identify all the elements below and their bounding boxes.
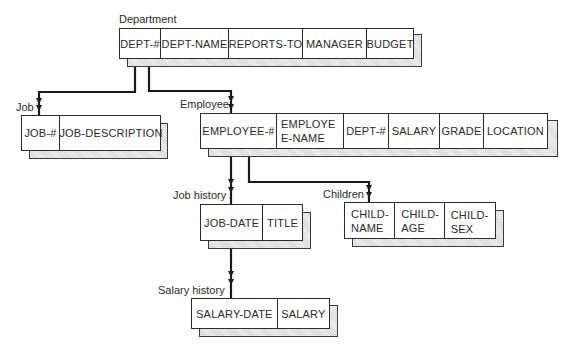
record-job: JOB-# JOB-DESCRIPTION <box>21 115 161 151</box>
field-location: LOCATION <box>484 114 547 148</box>
arrow-icon <box>36 98 42 104</box>
field-child-sex-text: CHILD-SEX <box>451 208 489 236</box>
field-manager: MANAGER <box>303 29 367 58</box>
record-employee: EMPLOYEE-# EMPLOYEE-NAME DEPT-# SALARY G… <box>200 113 548 149</box>
field-employee-name-text: EMPLOYEE-NAME <box>281 117 339 145</box>
field-dept-number: DEPT-# <box>344 114 389 148</box>
arrow-icon <box>366 185 372 191</box>
arrow-icon <box>36 105 42 111</box>
field-salary-date: SALARY-DATE <box>192 299 278 328</box>
arrow-icon <box>228 279 234 285</box>
arrow-icon <box>228 179 234 185</box>
field-employee-number: EMPLOYEE-# <box>201 114 277 148</box>
field-job-number: JOB-# <box>22 116 60 150</box>
record-salary-history: SALARY-DATE SALARY <box>191 298 330 329</box>
record-department: DEPT-# DEPT-NAME REPORTS-TO MANAGER BUDG… <box>119 28 414 59</box>
field-child-name-text: CHILD-NAME <box>351 207 389 235</box>
entity-label-job-history: Job history <box>173 189 226 201</box>
record-children: CHILD-NAME CHILD-AGE CHILD-SEX <box>344 202 496 239</box>
entity-label-job: Job <box>16 101 34 113</box>
field-child-name: CHILD-NAME <box>345 203 395 238</box>
field-job-description: JOB-DESCRIPTION <box>60 116 162 150</box>
field-salary: SALARY <box>389 114 440 148</box>
field-title: TITLE <box>263 205 302 240</box>
connector-department-job <box>39 66 135 116</box>
entity-label-department: Department <box>119 13 176 25</box>
field-employee-name: EMPLOYEE-NAME <box>277 114 344 148</box>
arrow-icon <box>228 187 234 193</box>
entity-label-children: Children <box>323 188 364 200</box>
field-dept-number: DEPT-# <box>120 29 161 58</box>
field-child-age: CHILD-AGE <box>395 203 444 238</box>
entity-label-salary-history: Salary history <box>158 284 225 296</box>
entity-label-employee: Employee <box>180 98 229 110</box>
arrow-icon <box>366 192 372 198</box>
field-job-date: JOB-DATE <box>201 205 263 240</box>
field-salary: SALARY <box>278 299 329 328</box>
field-budget: BUDGET <box>367 29 413 58</box>
field-dept-name: DEPT-NAME <box>161 29 229 58</box>
field-child-sex: CHILD-SEX <box>445 203 495 238</box>
record-job-history: JOB-DATE TITLE <box>200 204 303 241</box>
arrow-icon <box>228 271 234 277</box>
field-grade: GRADE <box>440 114 484 148</box>
field-child-age-text: CHILD-AGE <box>401 207 439 235</box>
field-reports-to: REPORTS-TO <box>229 29 303 58</box>
